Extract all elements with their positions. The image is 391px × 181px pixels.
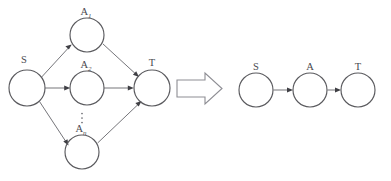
node-t-right[interactable]: [341, 73, 375, 107]
edge-a2-to-t-arrowhead: [128, 86, 134, 91]
node-s-right[interactable]: [239, 73, 273, 107]
edge-an-to-t: [98, 101, 142, 143]
node-label-a2-subscript: 2: [88, 65, 92, 73]
edge-s-to-an: [40, 102, 69, 146]
edge-a-to-t-right-arrowhead: [335, 88, 341, 93]
edge-s-to-a1-arrowhead: [65, 44, 71, 49]
node-label-s-left: S: [21, 54, 27, 65]
right-graph-nodes: [239, 73, 375, 107]
edge-a1-to-t: [103, 44, 139, 77]
edge-a1-to-t-line: [103, 44, 137, 75]
edge-s-to-a2-arrowhead: [64, 86, 70, 91]
figure-container: S A1 A2 An T: [0, 0, 391, 181]
edge-s-to-a-right-arrowhead: [287, 88, 293, 93]
edge-s-to-a1-line: [42, 45, 72, 77]
node-label-s-right: S: [253, 61, 259, 72]
edge-a-to-t-right: [328, 88, 342, 93]
diagram-canvas: S A1 A2 An T: [0, 0, 391, 181]
left-graph-nodes: [9, 18, 170, 169]
node-label-an-subscript: n: [83, 129, 87, 137]
right-graph-edges: [274, 88, 342, 93]
node-label-t-right: T: [355, 61, 362, 72]
edge-s-to-a2: [45, 86, 70, 91]
left-graph-edges: [40, 44, 142, 146]
node-s-left[interactable]: [9, 70, 45, 106]
node-an[interactable]: [65, 135, 99, 169]
right-graph-labels: S A T: [253, 61, 362, 72]
edge-s-to-an-line: [40, 102, 67, 143]
edge-s-to-a-right: [274, 88, 294, 93]
node-label-a1-subscript: 1: [88, 12, 92, 20]
edge-s-to-a1: [42, 44, 72, 77]
node-a2[interactable]: [70, 71, 104, 105]
node-label-a-right: A: [306, 61, 314, 72]
edge-an-to-t-line: [98, 103, 140, 143]
vertical-ellipsis-dot: [81, 113, 83, 115]
node-label-t-left: T: [149, 57, 156, 68]
node-a-right[interactable]: [293, 73, 327, 107]
vertical-ellipsis: [81, 113, 83, 124]
edge-a2-to-t: [104, 86, 134, 91]
node-t-left[interactable]: [134, 70, 170, 106]
vertical-ellipsis-dot: [81, 117, 83, 119]
node-a1[interactable]: [70, 18, 104, 52]
implies-block-arrow-icon: [177, 73, 222, 104]
left-graph-labels: S A1 A2 An T: [21, 6, 156, 137]
